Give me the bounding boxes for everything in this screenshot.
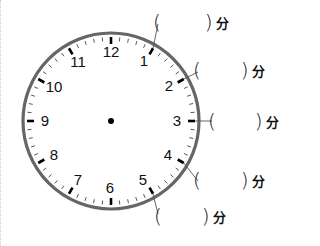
minute-tick — [184, 154, 188, 156]
close-paren: ) — [241, 168, 249, 192]
minute-tick — [128, 199, 129, 203]
open-paren: ( — [208, 109, 216, 133]
minute-tick — [187, 95, 191, 96]
minute-unit: 分 — [252, 171, 265, 190]
minute-tick — [85, 41, 86, 45]
minute-tick — [187, 146, 191, 147]
answer-row-1: ( ) 分 — [153, 10, 229, 34]
minute-tick — [158, 186, 160, 189]
answer-row-2: ( ) 分 — [193, 58, 265, 82]
minute-tick — [43, 72, 46, 74]
answer-row-3: ( ) 分 — [208, 109, 279, 133]
hour-10: 10 — [46, 78, 63, 95]
minute-tick — [94, 199, 95, 203]
minute-tick — [55, 59, 58, 62]
close-paren: ) — [255, 109, 263, 133]
minute-tick — [34, 154, 38, 156]
minute-tick — [29, 104, 33, 105]
hour-3: 3 — [173, 112, 181, 129]
minute-tick — [144, 44, 146, 48]
hour-2: 2 — [165, 77, 173, 94]
minute-tick — [136, 197, 137, 201]
open-paren: ( — [153, 10, 161, 34]
minute-tick — [189, 104, 193, 105]
center-dot — [108, 118, 114, 124]
close-paren: ) — [241, 58, 249, 82]
minute-tick — [49, 175, 52, 178]
minute-tick — [165, 59, 168, 62]
minute-tick — [34, 87, 38, 89]
hour-tick — [38, 160, 44, 164]
hour-tick — [178, 79, 184, 83]
open-paren: ( — [193, 168, 201, 192]
minute-tick — [29, 138, 33, 139]
minute-tick — [31, 146, 35, 147]
minute-tick — [77, 194, 79, 198]
answer-row-5: ( ) 分 — [154, 204, 226, 228]
hour-9: 9 — [41, 112, 49, 129]
open-paren: ( — [193, 58, 201, 82]
hour-4: 4 — [164, 146, 172, 163]
minute-tick — [49, 65, 52, 68]
close-paren: ) — [205, 10, 213, 34]
minute-tick — [62, 53, 64, 56]
minute-tick — [31, 95, 35, 96]
hour-11: 11 — [70, 53, 86, 70]
minute-tick — [62, 186, 64, 189]
hour-tick — [69, 188, 73, 194]
hour-tick — [178, 160, 184, 164]
minute-tick — [165, 180, 168, 183]
minute-tick — [85, 197, 86, 201]
minute-tick — [170, 175, 173, 178]
answer-row-4: ( ) 分 — [193, 168, 265, 192]
hour-12: 12 — [103, 43, 120, 60]
hour-1: 1 — [140, 52, 148, 69]
hour-tick — [38, 79, 44, 83]
minute-tick — [158, 53, 160, 56]
minute-tick — [144, 194, 146, 198]
hour-tick — [150, 48, 154, 54]
minute-tick — [77, 44, 79, 48]
minute-tick — [128, 39, 129, 43]
hour-8: 8 — [50, 146, 58, 163]
minute-unit: 分 — [216, 13, 229, 32]
minute-tick — [170, 65, 173, 68]
hour-5: 5 — [139, 171, 147, 188]
minute-unit: 分 — [266, 112, 279, 131]
minute-tick — [176, 168, 179, 170]
minute-tick — [184, 87, 188, 89]
minute-tick — [55, 180, 58, 183]
hour-6: 6 — [106, 179, 114, 196]
minute-tick — [136, 41, 137, 45]
minute-tick — [176, 72, 179, 74]
minute-unit: 分 — [252, 61, 265, 80]
open-paren: ( — [154, 204, 162, 228]
minute-tick — [43, 168, 46, 170]
minute-unit: 分 — [213, 207, 226, 226]
close-paren: ) — [202, 204, 210, 228]
hour-7: 7 — [74, 171, 82, 188]
hour-tick — [150, 188, 154, 194]
minute-tick — [94, 39, 95, 43]
minute-tick — [189, 138, 193, 139]
